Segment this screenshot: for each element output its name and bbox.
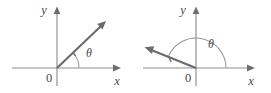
x-axis-label-left: x	[113, 74, 120, 88]
x-axis-label-right: x	[247, 74, 254, 88]
diagram-panel-right: y x 0 θ	[135, 0, 271, 93]
terminal-ray-right	[145, 46, 197, 68]
angle-diagrams-figure: y x 0 θ	[0, 0, 271, 93]
terminal-ray-left	[57, 21, 106, 68]
origin-label-left: 0	[46, 71, 52, 85]
y-axis-left	[54, 7, 61, 87]
x-axis-arrowhead-icon	[113, 64, 121, 71]
origin-label-right: 0	[185, 71, 191, 85]
ray-arrowhead-icon	[145, 46, 155, 54]
y-axis-arrowhead-icon	[54, 7, 61, 15]
x-axis-left	[12, 64, 121, 71]
y-axis-arrowhead-icon	[193, 7, 200, 15]
x-axis-right	[143, 64, 255, 71]
y-axis-right	[193, 7, 200, 87]
angle-label-right: θ	[208, 37, 214, 51]
y-axis-label-right: y	[178, 3, 186, 17]
y-axis-label-left: y	[39, 3, 47, 17]
diagram-panel-left: y x 0 θ	[0, 0, 135, 93]
angle-arc-left	[73, 53, 79, 69]
angle-label-left: θ	[86, 46, 92, 60]
angle-arc-right	[168, 38, 226, 68]
x-axis-arrowhead-icon	[247, 64, 255, 71]
